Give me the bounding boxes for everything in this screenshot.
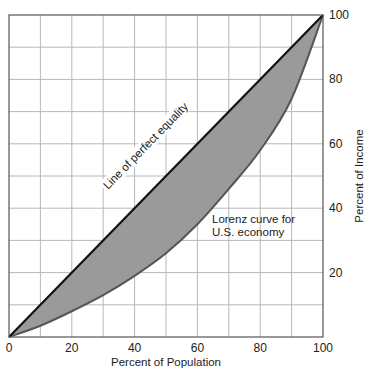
y-tick-label: 40 [329,201,343,215]
x-tick-label: 100 [313,341,333,355]
y-tick-label: 100 [329,8,349,22]
x-axis-ticks: 020406080100 [6,341,334,355]
x-axis-label: Percent of Population [111,356,221,368]
lorenz-chart: 020406080100 20406080100 Percent of Popu… [0,0,373,376]
y-tick-label: 80 [329,72,343,86]
x-tick-label: 0 [6,341,13,355]
y-tick-label: 20 [329,266,343,280]
x-tick-label: 60 [191,341,205,355]
x-tick-label: 40 [128,341,142,355]
x-tick-label: 20 [65,341,79,355]
lorenz-label-line2: U.S. economy [212,226,284,238]
y-axis-ticks: 20406080100 [329,8,349,280]
y-tick-label: 60 [329,137,343,151]
y-axis-label: Percent of Income [353,129,365,222]
lorenz-label-line1: Lorenz curve for [212,213,295,225]
x-tick-label: 80 [254,341,268,355]
